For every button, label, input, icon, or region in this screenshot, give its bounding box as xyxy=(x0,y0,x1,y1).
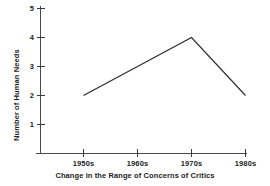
x-tick-label-1960s: 1960s xyxy=(116,160,160,168)
x-axis-title: Change in the Range of Concerns of Criti… xyxy=(0,172,270,180)
x-tick-label-1980s: 1980s xyxy=(224,160,268,168)
y-tick-label-5: 5 xyxy=(18,5,34,13)
line-chart: 5 4 3 2 1 1950s 1960s 1970s 1980s Change… xyxy=(0,0,270,186)
data-series-line xyxy=(84,38,246,96)
y-tick-label-4: 4 xyxy=(18,34,34,42)
y-axis-title: Number of Human Needs xyxy=(13,49,21,141)
x-tick-label-1970s: 1970s xyxy=(170,160,214,168)
x-tick-label-1950s: 1950s xyxy=(62,160,106,168)
